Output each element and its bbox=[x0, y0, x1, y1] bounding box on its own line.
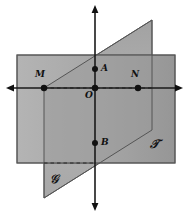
point-m-dot bbox=[41, 85, 47, 91]
horizontal-axis-arrow-right bbox=[175, 85, 183, 92]
geometry-diagram-canvas: M O N A B 𝒯 𝒢 bbox=[0, 0, 188, 215]
point-n-dot bbox=[135, 85, 141, 91]
point-a-dot bbox=[92, 66, 98, 72]
point-b-dot bbox=[92, 140, 98, 146]
point-n-label: N bbox=[131, 70, 139, 79]
point-m-label: M bbox=[35, 70, 45, 79]
point-a-label: A bbox=[101, 64, 108, 73]
plane-t-label: 𝒯 bbox=[150, 138, 159, 150]
vertical-axis-arrow-up bbox=[92, 5, 99, 13]
plane-s-label: 𝒢 bbox=[50, 173, 59, 185]
point-b-label: B bbox=[101, 138, 109, 147]
point-o-label: O bbox=[85, 91, 93, 100]
horizontal-axis-arrow-left bbox=[6, 85, 14, 92]
diagram-svg bbox=[0, 0, 188, 215]
vertical-axis-arrow-down bbox=[92, 203, 99, 211]
